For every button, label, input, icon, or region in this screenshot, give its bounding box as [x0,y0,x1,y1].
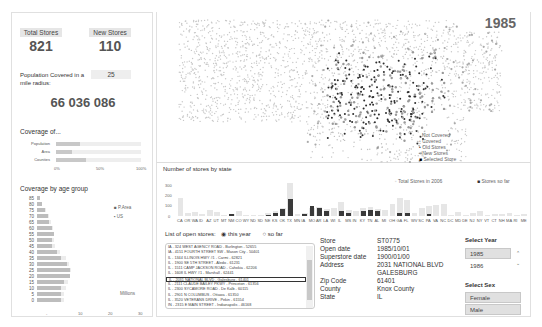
age-row: 50 [12,238,154,243]
state-label: CT [491,218,496,223]
age-row: 20 [12,274,154,279]
state-label: AZ [206,218,211,223]
select-year-title: Select Year [465,237,497,243]
sex-female[interactable]: Female [465,292,521,303]
detail-value: ST0775 [377,237,400,244]
age-row: 55 [12,232,154,237]
state-label: MD [455,218,461,223]
state-label: AR [316,218,322,223]
state-label: UT [214,218,219,223]
age-chart-title: Coverage by age group [20,185,88,192]
legend-total-2006: ▪ Total Stores in 2006 [395,178,442,184]
age-row: 15 [12,280,154,285]
age-row: 60 [12,226,154,231]
detail-label: State [320,293,335,300]
state-label: ME [521,218,527,223]
state-label: WV [411,218,417,223]
list-scrollbar[interactable] [306,246,313,308]
map-dots [157,12,532,163]
detail-label: County [320,285,341,292]
state-label: VT [484,218,489,223]
state-label: VA [433,218,438,223]
detail-value: Knox County [377,285,414,292]
total-stores-value: 821 [20,38,62,54]
state-label: LA [323,218,328,223]
legend-parea: ■ P.Area [114,205,131,210]
millions-label: Millions [120,291,135,296]
list-item[interactable]: IN - 2315 E MAIN STREET - Indianapolis -… [166,303,306,308]
state-label: CA [177,218,183,223]
detail-value: 2031 NATIONAL BLVD [377,261,443,268]
state-label: SD [257,218,263,223]
age-row: 30 [12,262,154,267]
state-label: MS [345,218,351,223]
new-stores-label: New Stores [89,28,131,37]
state-label: NY [477,218,483,223]
state-label: FL [404,218,409,223]
detail-label: Store [320,237,336,244]
state-label: NC [440,218,446,223]
state-label: WI [331,218,336,223]
detail-value: 61401 [377,277,395,284]
age-row: 65 [12,220,154,225]
state-label: OH [389,218,395,223]
state-label: TN [367,218,372,223]
year-scroll[interactable]: ⌃⌄ [514,248,521,271]
state-label: AL [374,218,379,223]
state-label: CO [236,218,242,223]
year-1985[interactable]: 1985 [465,248,511,259]
state-label: MT [221,218,227,223]
detail-value: GALESBURG [377,269,417,276]
coverage-row-area: Area [12,149,154,155]
coverage-row-counties: Counties [12,157,154,163]
state-label: DC [448,218,454,223]
detail-value: IL [377,293,382,300]
state-label: OR [184,218,190,223]
state-label: NE [265,218,271,223]
age-row: 75 [12,208,154,213]
detail-label: Zip Code [320,277,346,284]
state-chart-title: Number of stores by state [163,166,232,172]
map-year: 1985 [485,15,516,31]
state-label: WY [243,218,249,223]
age-row: 25 [12,268,154,273]
bottom-panel: List of open stores: ◉ this year ○ so fa… [156,227,531,317]
scrollbar-thumb[interactable] [307,260,312,300]
state-label: NH [499,218,505,223]
legend-selected-store: ■ Selected Store [419,156,456,162]
detail-label: Address [320,261,344,268]
detail-value: 1985/10/01 [377,245,410,252]
store-map[interactable]: 1985 · Not Covered • Covered • Old Store… [156,12,531,163]
state-bar-chart: Number of stores by state ▪ Total Stores… [156,163,531,227]
state-label: MN [294,218,300,223]
radio-this-year[interactable]: ◉ this year [221,231,250,237]
year-1986[interactable]: 1986 [465,260,511,271]
coverage-title: Coverage of... [20,128,61,135]
state-label: ND [250,218,256,223]
age-row: 40 [12,250,154,255]
state-label: NM [228,218,234,223]
state-label: MA [506,218,512,223]
state-label: KY [360,218,365,223]
population-value: 66 036 086 [12,95,154,110]
age-row: 85 [12,196,154,201]
kpi-panel: Total Stores 821 New Stores 110 Populati… [11,12,153,317]
state-label: GA [396,218,402,223]
age-row: 80 [12,202,154,207]
store-listbox[interactable]: IA - 324 WEST AGENCY ROAD - Burlington -… [165,243,315,309]
state-label: DE [462,218,468,223]
sex-male[interactable]: Male [465,304,521,315]
new-stores-value: 110 [89,38,131,54]
store-list-header: List of open stores: ◉ this year ○ so fa… [165,230,283,237]
radius-input[interactable]: 25 [91,70,131,79]
state-label: MI [382,218,386,223]
population-label: Population Covered in a mile radius: [20,71,90,87]
state-label: NJ [470,218,475,223]
age-row: 35 [12,256,154,261]
radio-so-far[interactable]: ○ so far [262,231,282,237]
state-label: KS [272,218,277,223]
legend-us: ▪ US [114,214,123,219]
state-label: TX [287,218,292,223]
age-row: 70 [12,214,154,219]
state-label: OK [279,218,285,223]
